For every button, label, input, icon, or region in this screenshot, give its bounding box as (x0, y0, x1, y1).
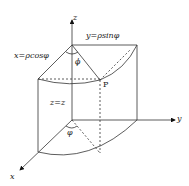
phi-top-label: ϕ (75, 57, 80, 66)
point-p-label: P (103, 80, 108, 89)
phi-bottom-label: φ (67, 128, 73, 137)
diagram-lines (0, 0, 189, 186)
y-axis-label: y (177, 114, 182, 123)
z-axis-label: z (73, 13, 77, 22)
cylindrical-coordinates-diagram: z y x y=ρsinφ x=ρcosφ z=z ϕ φ P (0, 0, 189, 186)
x-axis-label: x (10, 172, 15, 181)
x-equation-label: x=ρcosφ (14, 51, 49, 60)
z-equation-label: z=z (50, 98, 65, 107)
y-equation-label: y=ρsinφ (86, 31, 119, 40)
